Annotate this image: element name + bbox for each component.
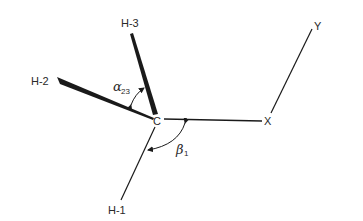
angle-arc-alpha23 — [131, 88, 144, 105]
bond-c-h1 — [121, 127, 155, 200]
atom-label-h3: H-3 — [121, 17, 139, 29]
bond-c-x — [164, 119, 262, 121]
atom-label-y: Y — [314, 20, 322, 32]
bond-c-h2 — [57, 77, 154, 120]
bond-x-y — [271, 29, 312, 113]
atom-label-h1: H-1 — [108, 204, 126, 216]
angle-subscript-beta: 1 — [184, 149, 189, 158]
atom-label-c: C — [153, 115, 161, 127]
atom-label-h2: H-2 — [31, 75, 49, 87]
bond-c-h3 — [130, 33, 158, 115]
angle-subscript-alpha: 23 — [121, 87, 130, 96]
diagram-canvas: H-3 H-2 C X Y H-1 α 23 β 1 — [0, 0, 363, 221]
atom-label-x: X — [264, 115, 272, 127]
angle-label-beta: β — [175, 142, 184, 157]
